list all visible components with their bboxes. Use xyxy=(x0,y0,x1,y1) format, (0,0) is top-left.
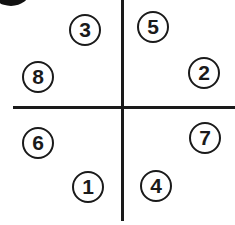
numbered-circle-3: 3 xyxy=(69,14,101,46)
numbered-circle-5: 5 xyxy=(137,11,169,43)
numbered-circle-6: 6 xyxy=(22,127,54,159)
numbered-circle-2: 2 xyxy=(188,57,220,89)
horizontal-axis-line xyxy=(13,106,235,109)
vertical-axis-line xyxy=(121,0,124,221)
numbered-circle-4: 4 xyxy=(140,170,172,202)
numbered-circle-7: 7 xyxy=(189,122,221,154)
corner-blob-shape xyxy=(0,0,30,6)
numbered-circle-8: 8 xyxy=(22,61,54,93)
numbered-circle-1: 1 xyxy=(72,171,104,203)
